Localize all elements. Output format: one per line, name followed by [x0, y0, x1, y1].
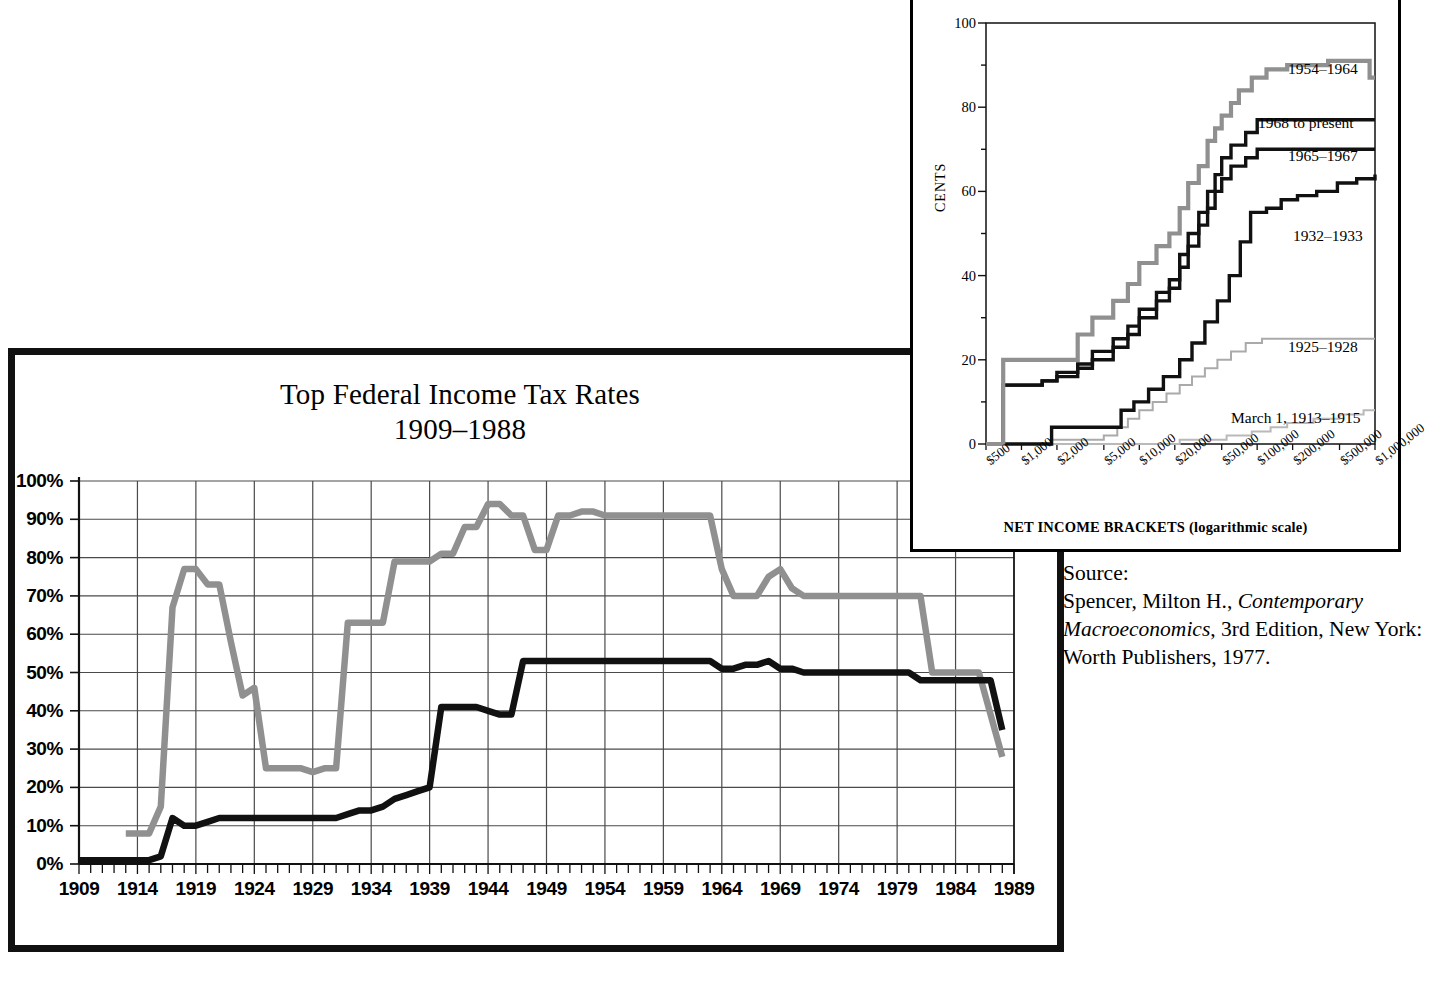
main-y-tick-0: 0%: [36, 853, 63, 875]
main-x-tick-1954: 1954: [585, 878, 626, 900]
inset-legend-1932-1933: 1932–1933: [1293, 227, 1363, 245]
main-x-tick-1929: 1929: [292, 878, 333, 900]
inset-chart-panel: CENTS 020406080100 $500$1,000$2,000$5,00…: [910, 0, 1401, 552]
inset-y-tick-40: 40: [940, 267, 976, 284]
inset-y-tick-0: 0: [940, 436, 976, 453]
main-x-tick-1984: 1984: [935, 878, 976, 900]
main-x-tick-1909: 1909: [59, 878, 100, 900]
main-y-tick-50: 50%: [26, 662, 63, 684]
inset-legend-1965-1967: 1965–1967: [1288, 147, 1358, 165]
main-y-tick-10: 10%: [26, 815, 63, 837]
source-author: Spencer, Milton H.,: [1063, 589, 1238, 613]
source-label: Source:: [1063, 560, 1435, 588]
inset-legend-1925-1928: 1925–1928: [1288, 338, 1358, 356]
main-x-tick-1944: 1944: [468, 878, 509, 900]
main-y-tick-30: 30%: [26, 738, 63, 760]
inset-y-tick-20: 20: [940, 351, 976, 368]
main-y-tick-20: 20%: [26, 776, 63, 798]
main-y-tick-70: 70%: [26, 585, 63, 607]
inset-y-tick-60: 60: [940, 183, 976, 200]
main-x-tick-1949: 1949: [526, 878, 567, 900]
main-y-tick-80: 80%: [26, 547, 63, 569]
main-x-tick-1979: 1979: [877, 878, 918, 900]
main-chart-svg: [15, 355, 1059, 947]
inset-chart-svg: [913, 0, 1398, 549]
inset-y-tick-80: 80: [940, 99, 976, 116]
main-plot-area: 0%10%20%30%40%50%60%70%80%90%100% 190919…: [15, 355, 1057, 945]
inset-x-axis-title: NET INCOME BRACKETS (logarithmic scale): [913, 519, 1398, 536]
main-x-tick-1939: 1939: [409, 878, 450, 900]
main-x-tick-1969: 1969: [760, 878, 801, 900]
main-x-tick-1934: 1934: [351, 878, 392, 900]
main-x-tick-1919: 1919: [176, 878, 217, 900]
source-title-part1: Contemporary: [1238, 589, 1363, 613]
main-x-tick-1989: 1989: [994, 878, 1035, 900]
main-x-tick-1974: 1974: [818, 878, 859, 900]
main-x-tick-1924: 1924: [234, 878, 275, 900]
main-chart-panel: Top Federal Income Tax Rates 1909–1988 0…: [8, 348, 1064, 952]
inset-legend-1954-1964: 1954–1964: [1288, 60, 1358, 78]
source-citation: Spencer, Milton H., Contemporary Macroec…: [1063, 588, 1435, 672]
source-edition: , 3rd Edition, New: [1210, 617, 1369, 641]
main-x-tick-1914: 1914: [117, 878, 158, 900]
main-x-tick-1959: 1959: [643, 878, 684, 900]
main-y-tick-40: 40%: [26, 700, 63, 722]
main-y-tick-100: 100%: [16, 470, 63, 492]
inset-legend-1968-to-present: 1968 to present: [1258, 114, 1354, 132]
main-y-tick-90: 90%: [26, 508, 63, 530]
inset-y-tick-100: 100: [940, 15, 976, 32]
main-x-tick-1964: 1964: [701, 878, 742, 900]
source-note: Source: Spencer, Milton H., Contemporary…: [1063, 560, 1435, 672]
main-y-tick-60: 60%: [26, 623, 63, 645]
inset-legend-march-1-1913-1915: March 1, 1913–1915: [1231, 409, 1361, 427]
source-title-part2: Macroeconomics: [1063, 617, 1210, 641]
